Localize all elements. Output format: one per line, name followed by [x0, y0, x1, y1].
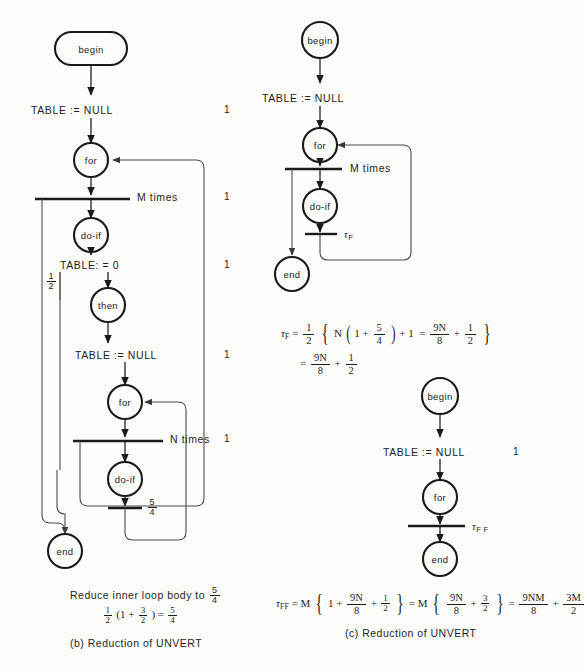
eq-tauf-plus: + [454, 327, 460, 339]
panel-c-bottom-graphics: begin for end [408, 378, 465, 576]
note-eq-open: (1 + [116, 608, 134, 620]
eq-tauf-eq1: = [292, 327, 298, 339]
stmt-c1-m-times: M times [350, 162, 391, 174]
node-doif-inner-b-label: do-if [115, 474, 135, 485]
eq-tauff-one-plus: 1 + [328, 597, 342, 609]
eq-tauff-f6-den: 2 [563, 604, 584, 617]
eq-tauff-eq2: = [409, 597, 415, 609]
eq-tauff-f3-num: 9N [447, 592, 466, 604]
equation-tau-ff: τFF = M { 1 + 9N 8 + 1 2 } = M { 9N 8 + … [276, 590, 586, 618]
eq-tauf-eq2: = [419, 327, 425, 339]
note-eq-lhs-num: 1 [104, 606, 113, 615]
node-begin-c1-label: begin [307, 35, 332, 46]
count-b-4: 1 [224, 349, 230, 360]
caption-panel-c: (c) Reduction of UNVERT [345, 627, 477, 639]
eq-tauf-l2b-den: 2 [346, 364, 357, 377]
label-tau-f-bar: τF [344, 228, 353, 242]
note-reduce-inner-loop: Reduce inner loop body to 5 4 [70, 586, 221, 606]
note-frac-num: 5 [210, 586, 220, 595]
eq-tauf-l2a-num: 9N [311, 352, 330, 364]
note-eq-lhs-den: 2 [104, 615, 113, 625]
count-b-5: 1 [224, 433, 230, 444]
eq-tauff-brace1-open: { [316, 589, 323, 617]
stmt-b-table-null-1: TABLE := NULL [31, 104, 113, 116]
eq-tauff-brace2-close: } [496, 589, 503, 617]
note-reduce-text: Reduce inner loop body to [70, 589, 205, 601]
eq-tauff-eq3: = [508, 597, 514, 609]
eq-tauf-brace-open: { [322, 319, 329, 347]
eq-tauff-f5-den: 8 [519, 604, 547, 617]
node-for-outer-b-label: for [85, 155, 97, 166]
node-for-c2-label: for [434, 492, 446, 503]
eq-tauff-f4-num: 3 [481, 594, 490, 603]
eq-tauf-one-plus: 1 + [354, 327, 368, 339]
node-for-c1-label: for [314, 140, 326, 151]
edge-exit-mid-to-end [57, 470, 65, 534]
weight-b-half-den: 2 [47, 281, 56, 291]
eq-tauf-brace-close: } [483, 319, 490, 347]
eq-tauff-f4-den: 2 [481, 603, 490, 613]
eq-tauff-plus1: + [371, 597, 377, 609]
eq-tauf-half-num: 1 [303, 322, 314, 334]
tau-ff-subscript: F F [476, 525, 488, 534]
stmt-c2-table-null: TABLE := NULL [383, 446, 465, 458]
node-then-b-label: then [98, 300, 118, 311]
note-frac-den: 4 [210, 595, 220, 605]
count-b-2: 1 [224, 191, 230, 202]
node-for-inner-b-label: for [119, 397, 131, 408]
edge-outer-loopback [80, 160, 204, 506]
eq-tauf-half-den: 2 [303, 334, 314, 347]
node-end-c1-label: end [283, 269, 300, 280]
count-c2-1: 1 [513, 446, 519, 457]
stmt-b-table-null-2: TABLE := NULL [75, 349, 157, 361]
eq-tauff-m2: M [418, 597, 428, 609]
eq-tauf-l2-plus: + [335, 357, 341, 369]
eq-tauf-l2a-den: 8 [311, 364, 330, 377]
note-eq-res-num: 5 [168, 606, 177, 615]
weight-b-half-num: 1 [47, 272, 56, 281]
eq-tauff-f6-num: 3M [563, 592, 584, 604]
eq-tauff-brace2-open: { [433, 589, 440, 617]
node-end-c2-label: end [431, 554, 448, 565]
eq-tauf-l2b-num: 1 [346, 352, 357, 364]
node-doif-outer-b-label: do-if [81, 230, 101, 241]
weight-b-ff-den: 4 [148, 507, 157, 517]
note-equation: 1 2 (1 + 3 2 ) = 5 4 [102, 606, 178, 626]
eq-tauf-n: N [334, 327, 342, 339]
eq-tauff-f3-den: 8 [447, 604, 466, 617]
eq-tauf-sub: F [285, 332, 289, 341]
eq-tauf-9n8-den: 8 [430, 334, 449, 347]
caption-panel-b: (b) Reduction of UNVERT [70, 637, 202, 649]
eq-tauf-paren-open: ( [346, 321, 350, 346]
eq-tauff-brace1-close: } [396, 589, 403, 617]
eq-tauff-f2-num: 1 [381, 594, 390, 603]
eq-tauff-f2-den: 2 [381, 603, 390, 613]
eq-tauff-f1-den: 8 [347, 604, 366, 617]
eq-tauf-half2-num: 1 [465, 322, 476, 334]
eq-tauff-eq1: = [292, 597, 298, 609]
node-end-b-label: end [56, 546, 73, 557]
weight-b-half: 1 2 [45, 272, 57, 292]
stmt-c1-table-null: TABLE := NULL [262, 92, 344, 104]
note-eq-inner-den: 2 [139, 615, 148, 625]
equation-tau-f-line1: τF = 1 2 { N ( 1 + 5 4 ) + 1 = 9N 8 + 1 … [281, 320, 493, 348]
eq-tauff-plus2: + [471, 597, 477, 609]
edge-inner-loopback [125, 402, 186, 540]
eq-tauf-half2-den: 2 [465, 334, 476, 347]
eq-tauf-54-den: 4 [374, 334, 385, 347]
node-begin-c2-label: begin [427, 391, 452, 402]
stmt-b-m-times: M times [137, 191, 178, 203]
eq-tauf-plus-one: + 1 [399, 327, 413, 339]
stmt-b-table-zero: TABLE: = 0 [60, 259, 119, 271]
eq-tauf-l2-eq: = [300, 357, 306, 369]
count-b-1: 1 [224, 104, 230, 115]
note-eq-inner-num: 3 [139, 606, 148, 615]
eq-tauff-m1: M [301, 597, 311, 609]
eq-tauff-plus3: + [552, 597, 558, 609]
stmt-b-n-times: N times [170, 433, 210, 445]
eq-tauff-f5-num: 9NM [519, 592, 547, 604]
note-eq-res-den: 4 [168, 615, 177, 625]
eq-tauf-9n8-num: 9N [430, 322, 449, 334]
eq-tauf-54-num: 5 [374, 322, 385, 334]
